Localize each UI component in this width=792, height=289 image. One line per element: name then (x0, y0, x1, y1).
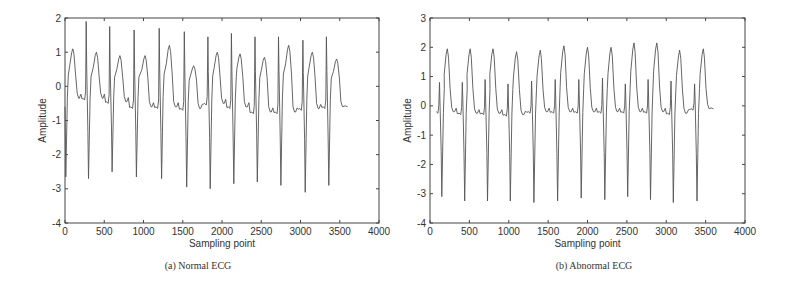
chart-normal-ecg: 05001000150020002500300035004000-4-3-2-1… (0, 0, 396, 289)
y-tick-label: -4 (52, 218, 61, 229)
ecg-waveform-line (436, 43, 713, 203)
x-tick-label: 1000 (132, 226, 155, 237)
x-tick-label: 0 (62, 226, 68, 237)
x-tick-label: 1500 (172, 226, 195, 237)
y-tick-label: 1 (420, 71, 426, 82)
y-tick-label: -3 (417, 188, 426, 199)
y-axis-label: Amplitude (37, 98, 48, 143)
x-tick-label: 3500 (695, 226, 718, 237)
panel-normal-ecg: 05001000150020002500300035004000-4-3-2-1… (0, 0, 396, 289)
x-tick-label: 2500 (250, 226, 273, 237)
y-tick-label: -2 (52, 149, 61, 160)
x-axis-label: Sampling point (189, 238, 255, 249)
y-tick-label: 3 (420, 13, 426, 24)
x-tick-label: 4000 (368, 226, 391, 237)
x-tick-label: 2000 (211, 226, 234, 237)
y-tick-label: -3 (52, 183, 61, 194)
x-tick-label: 2500 (616, 226, 639, 237)
x-tick-label: 1500 (537, 226, 560, 237)
y-tick-label: 2 (420, 42, 426, 53)
x-tick-label: 4000 (734, 226, 757, 237)
x-tick-label: 0 (427, 226, 433, 237)
y-tick-label: 0 (420, 100, 426, 111)
x-tick-label: 3000 (289, 226, 312, 237)
x-tick-label: 1000 (498, 226, 521, 237)
x-tick-label: 500 (461, 226, 478, 237)
plot-frame (65, 18, 379, 223)
x-tick-label: 2000 (576, 226, 599, 237)
x-axis-label: Sampling point (554, 238, 620, 249)
y-tick-label: 0 (55, 81, 61, 92)
y-tick-label: -1 (52, 115, 61, 126)
ecg-waveform-line (65, 21, 348, 192)
caption-normal-ecg: (a) Normal ECG (0, 260, 396, 271)
chart-abnormal-ecg: 05001000150020002500300035004000-4-3-2-1… (396, 0, 792, 289)
x-tick-label: 500 (96, 226, 113, 237)
y-tick-label: -2 (417, 159, 426, 170)
y-tick-label: 1 (55, 47, 61, 58)
caption-abnormal-ecg: (b) Abnormal ECG (396, 260, 792, 271)
x-tick-label: 3000 (655, 226, 678, 237)
x-tick-label: 3500 (329, 226, 352, 237)
y-axis-label: Amplitude (402, 98, 413, 143)
y-tick-label: 2 (55, 13, 61, 24)
panel-abnormal-ecg: 05001000150020002500300035004000-4-3-2-1… (396, 0, 792, 289)
y-tick-label: -1 (417, 130, 426, 141)
y-tick-label: -4 (417, 218, 426, 229)
